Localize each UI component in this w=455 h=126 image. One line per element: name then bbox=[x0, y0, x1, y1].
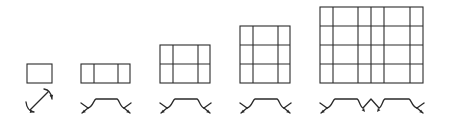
figures-group bbox=[26, 7, 424, 113]
fold-peak bbox=[363, 99, 379, 108]
figure-grid-3x1 bbox=[81, 64, 131, 113]
fold-wing-upper bbox=[81, 103, 88, 108]
fold-wing-upper bbox=[124, 103, 131, 108]
figure-grid-1x1 bbox=[26, 64, 53, 113]
fold-wing-upper bbox=[160, 103, 167, 108]
panel-outline bbox=[240, 26, 290, 83]
fold-symbol bbox=[160, 99, 211, 113]
arrowhead-icon bbox=[362, 108, 365, 112]
arrow-shaft bbox=[30, 92, 48, 110]
arrowhead-icon bbox=[377, 108, 380, 112]
panel-grid bbox=[320, 7, 423, 83]
panel-grid bbox=[81, 64, 130, 83]
panel-outline bbox=[27, 64, 52, 83]
fold-symbol bbox=[320, 99, 424, 113]
fold-symbol bbox=[81, 99, 131, 113]
panel-outline bbox=[81, 64, 130, 83]
fold-profile-line bbox=[167, 99, 204, 108]
fold-wing-upper bbox=[204, 103, 211, 108]
fold-wing-upper bbox=[417, 103, 424, 108]
fold-wing-upper bbox=[320, 103, 327, 108]
panel-layout-diagram bbox=[0, 0, 455, 126]
fold-profile-line bbox=[88, 99, 124, 108]
figure-grid-6x4 bbox=[320, 7, 424, 113]
figure-grid-3x3 bbox=[240, 26, 291, 113]
fold-wing-upper bbox=[240, 103, 247, 108]
panel-grid bbox=[160, 45, 210, 83]
rotate-double-arrow-icon bbox=[26, 89, 53, 113]
panel-grid bbox=[27, 64, 52, 83]
fold-profile-line bbox=[247, 99, 284, 108]
fold-symbol bbox=[240, 99, 291, 113]
figure-grid-3x2 bbox=[160, 45, 211, 113]
panel-grid bbox=[240, 26, 290, 83]
fold-wing-upper bbox=[284, 103, 291, 108]
